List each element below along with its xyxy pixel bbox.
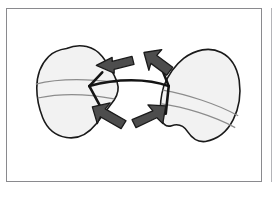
figure-root <box>0 0 278 197</box>
right-valve <box>160 49 239 141</box>
anatomical-diagram <box>7 9 261 181</box>
adjacent-panel-edge <box>271 8 278 182</box>
left-valve <box>36 46 118 138</box>
right-valve-outline <box>160 49 239 141</box>
left-valve-outline <box>37 46 118 138</box>
arrow-upper-right <box>144 50 173 76</box>
figure-panel <box>6 8 262 182</box>
arrow-lower-right <box>132 105 166 128</box>
